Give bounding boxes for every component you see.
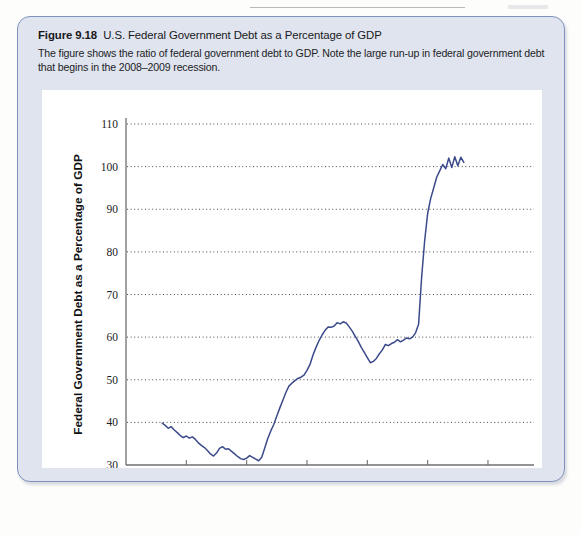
- y-tick-100: 100: [101, 161, 119, 173]
- figure-title-text: U.S. Federal Government Debt as a Percen…: [103, 29, 382, 41]
- figure-description: The figure shows the ratio of federal go…: [38, 46, 550, 74]
- page-top-rule: [250, 7, 465, 8]
- y-tick-70: 70: [107, 289, 119, 301]
- y-tick-60: 60: [107, 331, 119, 343]
- y-axis-tick-labels: 30405060708090100110: [101, 118, 119, 468]
- y-tick-80: 80: [107, 246, 119, 258]
- x-axis-tick-labels: 1960197019801990200020102020: [115, 460, 500, 468]
- chart-container: 30405060708090100110 1960197019801990200…: [42, 90, 542, 468]
- y-tick-110: 110: [101, 118, 118, 130]
- y-tick-90: 90: [107, 203, 119, 215]
- page-top-mark: [508, 5, 548, 9]
- figure-caption: Figure 9.18 U.S. Federal Government Debt…: [38, 28, 550, 74]
- y-tick-40: 40: [107, 416, 119, 428]
- figure-number: Figure 9.18: [38, 29, 97, 41]
- y-tick-50: 50: [107, 374, 119, 386]
- figure-title-line: Figure 9.18 U.S. Federal Government Debt…: [38, 28, 550, 43]
- y-axis-title: Federal Government Debt as a Percentage …: [71, 154, 85, 435]
- debt-gdp-line-chart: 30405060708090100110 1960197019801990200…: [42, 90, 542, 468]
- debt-gdp-series-line: [162, 157, 464, 461]
- y-tick-30: 30: [107, 459, 119, 468]
- gridlines: [127, 124, 534, 422]
- figure-panel: Figure 9.18 U.S. Federal Government Debt…: [17, 16, 565, 482]
